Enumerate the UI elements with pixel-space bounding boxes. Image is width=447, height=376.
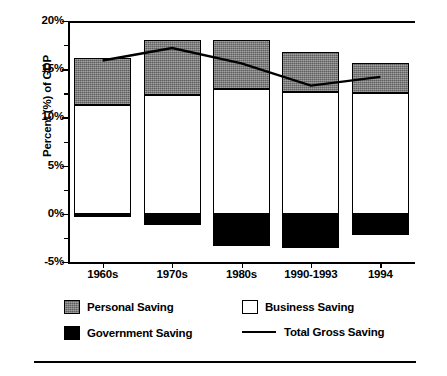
x-tick-label: 1990-1993	[284, 268, 337, 280]
y-tick-label: 5%	[48, 159, 64, 171]
legend-item-personal-saving: Personal Saving	[64, 300, 173, 314]
legend-swatch-government-icon	[64, 326, 80, 340]
legend-row-2: Government Saving Total Gross Saving	[64, 326, 424, 346]
bottom-divider-rule	[34, 361, 416, 363]
legend-label-personal: Personal Saving	[87, 301, 173, 313]
legend-label-business: Business Saving	[265, 301, 354, 313]
chart-legend: Personal Saving Business Saving Governme…	[64, 300, 424, 346]
legend-item-total-gross-saving: Total Gross Saving	[242, 326, 384, 338]
y-tick-label: 20%	[42, 14, 64, 26]
legend-label-government: Government Saving	[87, 327, 192, 339]
x-axis-tick-labels: 1960s1970s1980s1990-19931994	[68, 268, 415, 286]
chart-figure: Percent (%) of GDP -5%0%5%10%15%20% 1960…	[0, 0, 447, 376]
y-tick-label: 0%	[48, 207, 64, 219]
legend-row-1: Personal Saving Business Saving	[64, 300, 424, 320]
legend-line-marker-icon	[242, 331, 276, 333]
legend-swatch-business-icon	[242, 300, 258, 314]
y-axis-tick-labels: -5%0%5%10%15%20%	[0, 21, 64, 262]
x-tick-label: 1994	[368, 268, 393, 280]
x-tick-label: 1980s	[226, 268, 257, 280]
legend-item-business-saving: Business Saving	[242, 300, 354, 314]
legend-swatch-personal-icon	[64, 300, 80, 314]
y-tick-major	[62, 262, 68, 263]
legend-label-total: Total Gross Saving	[284, 326, 384, 338]
total-gross-saving-line	[68, 21, 415, 262]
y-tick-label: 15%	[42, 62, 64, 74]
legend-item-government-saving: Government Saving	[64, 326, 192, 340]
y-tick-label: 10%	[42, 110, 64, 122]
x-tick-label: 1960s	[87, 268, 118, 280]
x-tick-label: 1970s	[157, 268, 188, 280]
y-tick-label: -5%	[44, 255, 64, 267]
plot-area	[68, 21, 415, 262]
